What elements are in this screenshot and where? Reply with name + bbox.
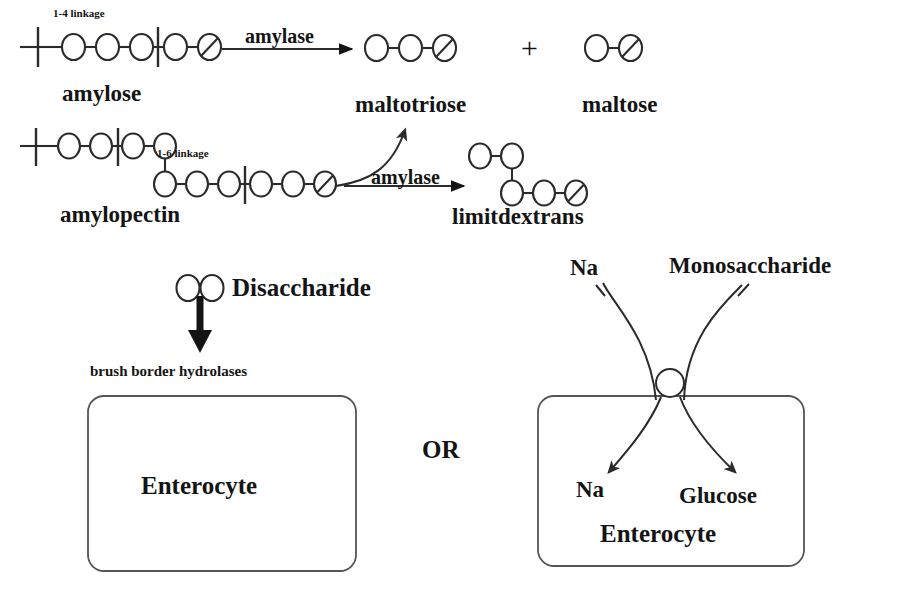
arrow-glucose-into-cell [680,397,735,472]
transporter-channel-left [603,283,656,400]
amylopectin-bottom-residue-3 [218,172,240,197]
disaccharide-residue-2 [201,275,224,301]
label-amylose: amylose [62,82,141,105]
label-maltotriose: maltotriose [355,93,466,116]
limitdextrans-bottom-residue-2 [533,181,555,206]
limitdextrans-top-residue-1 [469,144,491,169]
label-amylase-bottom: amylase [371,167,440,187]
structure-limitdextrans [469,144,587,206]
amylopectin-top-residue-1 [58,134,80,159]
label-na-outside: Na [570,256,598,279]
amylose-residue-4 [164,34,187,60]
amylose-residue-2 [96,34,119,60]
label-amylase-top: amylase [245,26,314,46]
amylopectin-bottom-residue-5 [282,172,304,197]
label-enterocyte-left: Enterocyte [141,473,257,498]
label-monosaccharide: Monosaccharide [669,254,831,277]
label-disaccharide: Disaccharide [232,275,371,300]
structure-amylose [20,27,221,67]
amylose-residue-1 [62,34,85,60]
label-na-inside: Na [576,478,604,501]
label-leaders [596,284,749,296]
label-plus: + [521,33,538,63]
arrow-na-into-cell [609,397,661,472]
amylopectin-bottom-residue-1 [154,172,176,197]
maltotriose-residue-2 [399,35,422,61]
maltose-reducing-end [619,35,642,61]
limitdextrans-bottom-residue-1 [501,181,523,206]
structure-maltotriose [365,35,456,61]
amylopectin-reducing-end [314,172,336,197]
disaccharide-residue-1 [177,275,200,301]
label-brush-border-hydrolases: brush border hydrolases [90,364,247,379]
maltose-residue-1 [585,35,608,61]
limitdextrans-top-residue-2 [501,144,523,169]
amylopectin-bottom-residue-2 [186,172,208,197]
label-1-6-linkage: 1-6 linkage [157,148,209,159]
figure-canvas: 1-4 linkage amylose amylase maltotriose … [0,0,907,601]
limitdextrans-reducing-end [565,181,587,206]
label-or: OR [422,437,460,462]
structure-amylopectin [20,128,336,204]
leader-monosaccharide [738,284,749,296]
label-limitdextrans: limitdextrans [452,205,584,228]
label-amylopectin: amylopectin [60,203,180,226]
transporter-pore-circle [656,369,684,397]
arrows-transport-products [609,397,735,472]
amylose-residue-3 [130,34,153,60]
amylopectin-bottom-residue-4 [250,172,272,197]
maltotriose-residue-1 [365,35,388,61]
maltotriose-reducing-end [433,35,456,61]
arrow-brush-border-hydrolysis [188,296,212,353]
leader-na [596,285,605,296]
transporter-channel-right [684,285,742,400]
label-glucose: Glucose [679,484,757,507]
amylopectin-top-residue-2 [90,134,112,159]
structure-maltose [585,35,642,61]
sglt-transporter [603,283,742,400]
label-maltose: maltose [582,93,657,116]
label-1-4-linkage: 1-4 linkage [53,8,105,19]
amylose-reducing-end [198,34,221,60]
amylopectin-top-residue-3 [122,134,144,159]
label-enterocyte-right: Enterocyte [600,521,716,546]
